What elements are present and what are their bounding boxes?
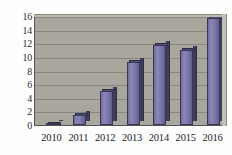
- bar-side-face: [220, 17, 222, 121]
- bar-2014: [153, 41, 166, 125]
- bar-front-face: [100, 91, 113, 125]
- x-axis-tick: 2015: [176, 132, 196, 144]
- y-axis-tick: 12: [0, 39, 32, 49]
- y-axis-tick: 10: [0, 53, 32, 63]
- y-axis-tick: 16: [0, 12, 32, 22]
- y-axis-tick: 2: [0, 107, 32, 117]
- bar-2016: [207, 17, 220, 125]
- y-axis-tick: 8: [0, 67, 32, 77]
- bar-2015: [180, 46, 193, 125]
- bar-side-face: [140, 58, 144, 121]
- plot-area: [34, 17, 222, 126]
- x-axis-tick: 2012: [95, 132, 115, 144]
- bar-side-face: [113, 87, 117, 121]
- plot-area-wrapper: [34, 14, 226, 126]
- bar-front-face: [180, 50, 193, 125]
- y-axis-tick: 6: [0, 80, 32, 90]
- bar-front-face: [127, 62, 140, 125]
- bar-side-face: [166, 41, 170, 121]
- bar-front-face: [207, 18, 220, 125]
- x-axis-tick: 2011: [68, 132, 88, 144]
- bar-front-face: [73, 115, 86, 125]
- y-axis-tick: 14: [0, 26, 32, 36]
- x-axis-tick: 2013: [122, 132, 142, 144]
- bar-front-face: [46, 123, 59, 125]
- bar-2011: [73, 111, 86, 125]
- y-axis-tick-labels: 0246810121416: [0, 14, 32, 126]
- bar-chart-figure: 0246810121416 20102011201220132014201520…: [0, 0, 232, 155]
- x-axis-tick: 2010: [41, 132, 61, 144]
- x-axis-tick-labels: 2010201120122013201420152016: [34, 132, 226, 150]
- plot-depth-right-face: [222, 14, 227, 126]
- bar-front-face: [153, 45, 166, 125]
- x-axis-tick: 2016: [202, 132, 222, 144]
- y-axis-tick: 4: [0, 94, 32, 104]
- x-axis-tick: 2014: [149, 132, 169, 144]
- bar-2012: [100, 87, 113, 125]
- bar-series: [35, 17, 222, 125]
- bar-2013: [127, 58, 140, 125]
- y-axis-tick: 0: [0, 121, 32, 131]
- bar-side-face: [193, 46, 197, 121]
- bar-2010: [46, 120, 59, 126]
